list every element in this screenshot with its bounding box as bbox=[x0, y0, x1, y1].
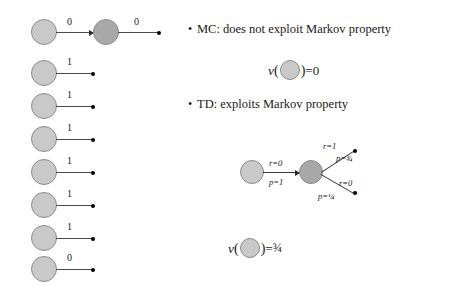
td-branch-top-terminal-dot bbox=[353, 149, 357, 153]
terminal-state-dot bbox=[91, 268, 95, 272]
reward-label: 0 bbox=[134, 17, 139, 27]
bullet-td-label: TD: exploits Markov property bbox=[197, 97, 348, 112]
bullet-mc: • MC: does not exploit Markov property bbox=[188, 22, 391, 37]
state-node-start bbox=[31, 192, 57, 218]
td-value-equation: v ( ) = ¾ bbox=[228, 238, 282, 258]
reward-label: 0 bbox=[67, 253, 72, 263]
state-node-start bbox=[31, 225, 57, 251]
td-transition-prob-label: p=1 bbox=[269, 178, 283, 187]
td-state-node-start bbox=[240, 160, 264, 184]
terminal-state-dot bbox=[91, 105, 95, 109]
transition-edge-terminal bbox=[56, 139, 93, 140]
terminal-state-dot bbox=[91, 237, 95, 241]
transition-edge-terminal bbox=[56, 172, 93, 173]
reward-label: 1 bbox=[67, 57, 72, 67]
td-branch-bottom-prob-label: p=¼ bbox=[318, 192, 334, 201]
mc-value-equation: v ( ) = 0 bbox=[268, 60, 319, 80]
transition-edge-terminal bbox=[56, 238, 93, 239]
td-branching-diagram: r=0 p=1 r=1 p=¾ r=0 p=¼ bbox=[240, 142, 400, 212]
mc-value-result: 0 bbox=[313, 63, 320, 78]
bullet-dot-icon: • bbox=[188, 97, 197, 112]
state-circle-argument bbox=[280, 60, 300, 80]
equals-sign: = bbox=[265, 241, 272, 256]
transition-edge-terminal bbox=[56, 205, 93, 206]
transition-edge-terminal bbox=[56, 73, 93, 74]
bullet-td: • TD: exploits Markov property bbox=[188, 97, 348, 112]
state-node-start bbox=[31, 159, 57, 185]
transition-edge-terminal bbox=[118, 32, 158, 33]
reward-label: 1 bbox=[67, 156, 72, 166]
state-node-start bbox=[31, 256, 57, 282]
explanation-panel: • MC: does not exploit Markov property v… bbox=[184, 0, 463, 285]
state-node-start bbox=[31, 60, 57, 86]
td-branch-bottom-terminal-dot bbox=[353, 191, 357, 195]
reward-label: 1 bbox=[67, 123, 72, 133]
state-node-next bbox=[93, 19, 119, 45]
td-value-result: ¾ bbox=[273, 241, 282, 256]
bullet-dot-icon: • bbox=[188, 22, 197, 37]
td-branch-top-prob-label: p=¾ bbox=[336, 154, 352, 163]
open-paren: ( bbox=[274, 63, 279, 78]
td-state-node-next bbox=[299, 160, 323, 184]
state-node-start bbox=[31, 126, 57, 152]
reward-label: 0 bbox=[67, 17, 72, 27]
state-node-start bbox=[31, 93, 57, 119]
terminal-state-dot bbox=[91, 72, 95, 76]
bullet-mc-label: MC: does not exploit Markov property bbox=[197, 22, 391, 37]
transition-edge-terminal bbox=[56, 269, 93, 270]
terminal-state-dot bbox=[91, 171, 95, 175]
reward-label: 1 bbox=[67, 90, 72, 100]
state-circle-argument bbox=[240, 238, 260, 258]
td-transition-reward-label: r=0 bbox=[269, 159, 282, 168]
transition-edge-terminal bbox=[56, 106, 93, 107]
slide-canvas: 0 0 1 1 1 bbox=[0, 0, 463, 285]
state-node-start bbox=[31, 19, 57, 45]
episode-chains-panel: 0 0 1 1 1 bbox=[0, 0, 180, 285]
terminal-state-dot bbox=[157, 31, 161, 35]
terminal-state-dot bbox=[91, 204, 95, 208]
open-paren: ( bbox=[234, 241, 239, 256]
terminal-state-dot bbox=[91, 138, 95, 142]
td-branch-bottom-reward-label: r=0 bbox=[339, 179, 352, 188]
reward-label: 1 bbox=[67, 189, 72, 199]
equals-sign: = bbox=[305, 63, 312, 78]
td-branch-top-reward-label: r=1 bbox=[323, 142, 336, 151]
reward-label: 1 bbox=[67, 222, 72, 232]
